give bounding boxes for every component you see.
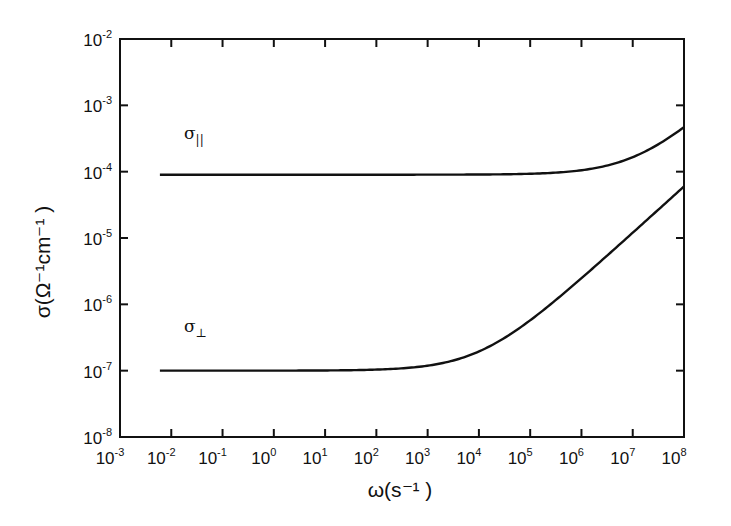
y-tick-label: 10-2 <box>83 28 112 50</box>
x-tick-label: 10-3 <box>96 446 125 468</box>
y-tick-label: 10-8 <box>83 426 112 448</box>
x-tick-label: 106 <box>559 446 584 468</box>
series-label-perpendicular: σ⊥ <box>184 316 207 340</box>
chart: 10-310-210-1100101102103104105106107108 … <box>0 0 731 526</box>
series-label-parallel: σ|| <box>184 123 204 147</box>
y-tick-label: 10-4 <box>83 161 112 183</box>
x-tick-label: 103 <box>405 446 430 468</box>
x-tick-label: 102 <box>354 446 379 468</box>
y-tick-label: 10-5 <box>83 227 112 249</box>
x-tick-label: 104 <box>456 446 481 468</box>
series-lines <box>160 127 684 370</box>
x-tick-label: 108 <box>661 446 686 468</box>
x-tick-label: 107 <box>610 446 635 468</box>
axis-ticks <box>120 39 684 437</box>
series-line-parallel <box>160 127 684 175</box>
y-tick-label: 10-3 <box>83 94 112 116</box>
x-tick-label: 10-1 <box>198 446 227 468</box>
x-tick-label: 105 <box>508 446 533 468</box>
x-tick-label: 100 <box>251 446 276 468</box>
x-tick-label: 10-2 <box>147 446 176 468</box>
y-tick-label: 10-7 <box>83 360 112 382</box>
y-tick-label: 10-6 <box>83 293 112 315</box>
plot-frame <box>120 39 684 437</box>
x-axis-title: ω(s⁻¹ ) <box>368 478 433 501</box>
x-tick-label: 101 <box>303 446 328 468</box>
y-tick-labels: 10-210-310-410-510-610-710-8 <box>83 28 112 448</box>
y-axis-title: σ(Ω⁻¹cm⁻¹ ) <box>31 206 54 318</box>
x-tick-labels: 10-310-210-1100101102103104105106107108 <box>96 446 687 468</box>
series-line-perpendicular <box>160 186 684 370</box>
